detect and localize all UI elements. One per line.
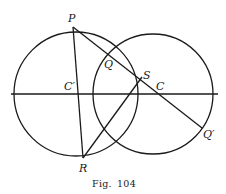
figure-diagram: P Q S C C′ R Q′ Fig. 104 <box>0 0 226 194</box>
label-Q-prime: Q′ <box>203 128 215 141</box>
label-C-prime: C′ <box>64 80 75 93</box>
label-S: S <box>143 69 151 82</box>
label-C: C <box>156 80 165 93</box>
label-R: R <box>78 162 87 175</box>
label-P: P <box>67 12 76 25</box>
caption-number: 104 <box>117 178 136 189</box>
caption-prefix: Fig. <box>92 178 112 189</box>
label-Q: Q <box>104 58 113 71</box>
